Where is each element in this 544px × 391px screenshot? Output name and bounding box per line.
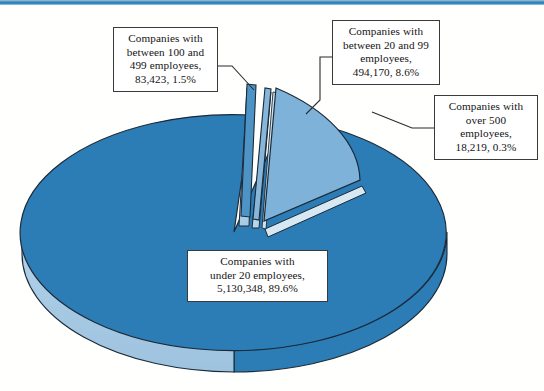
label-line-3: employees, — [337, 52, 435, 66]
label-line-1: Companies with — [192, 255, 323, 269]
label-line-4: 494,170, 8.6% — [337, 66, 435, 80]
label-box-companies-20-99[interactable]: Companies with between 20 and 99 employe… — [332, 20, 440, 85]
leader-line-over-500 — [372, 112, 434, 128]
label-line-3: 5,130,348, 89.6% — [192, 282, 323, 296]
label-line-1: Companies with — [118, 32, 213, 46]
label-line-3: 499 employees, — [118, 59, 213, 73]
label-line-1: Companies with — [337, 25, 435, 39]
label-line-4: 18,219, 0.3% — [439, 141, 533, 155]
label-line-2: between 100 and — [118, 46, 213, 60]
label-box-companies-over-500[interactable]: Companies with over 500 employees, 18,21… — [434, 95, 538, 160]
label-line-3: employees, — [439, 127, 533, 141]
pie-chart-figure: Companies with between 100 and 499 emplo… — [0, 0, 544, 391]
pie-chart-svg — [0, 0, 544, 391]
label-line-4: 83,423, 1.5% — [118, 73, 213, 87]
label-line-2: over 500 — [439, 114, 533, 128]
label-box-companies-under-20[interactable]: Companies with under 20 employees, 5,130… — [187, 250, 328, 302]
label-line-1: Companies with — [439, 100, 533, 114]
slice-under-20-top — [20, 115, 446, 351]
label-line-2: under 20 employees, — [192, 269, 323, 283]
label-line-2: between 20 and 99 — [337, 39, 435, 53]
label-box-companies-100-499[interactable]: Companies with between 100 and 499 emplo… — [113, 27, 218, 92]
